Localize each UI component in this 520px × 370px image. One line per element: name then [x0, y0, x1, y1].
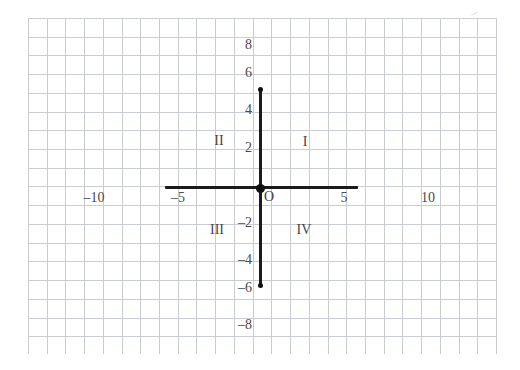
- quadrant-label-quadrant-1: I: [296, 135, 314, 149]
- x-axis-tick-label-x-minus-5: –5: [166, 191, 190, 205]
- x-axis-tick-label-x-plus-10: 10: [414, 191, 442, 205]
- y-axis-tick-label-y-minus-8: –8: [228, 318, 252, 332]
- x-axis-tick-label-x-plus-5: 5: [336, 191, 352, 205]
- quadrant-label-quadrant-2: II: [209, 134, 229, 148]
- coordinate-plane-figure: O –10–55108642–2–4–6–8IIIIIIIV: [0, 0, 520, 370]
- y-axis-tick-label-y-plus-8: 8: [234, 38, 252, 52]
- x-axis-tick-label-x-minus-10: –10: [78, 191, 110, 205]
- origin-label: O: [264, 190, 274, 204]
- quadrant-label-quadrant-3: III: [205, 223, 229, 237]
- y-axis-tick-label-y-minus-2: –2: [228, 216, 252, 230]
- axis-layer: [0, 0, 520, 370]
- y-axis-tick-label-y-minus-6: –6: [228, 281, 252, 295]
- y-axis-tick-label-y-minus-4: –4: [228, 253, 252, 267]
- y-axis-tick-label-y-plus-2: 2: [234, 141, 252, 155]
- y-axis-bottom-endpoint-dot: [258, 283, 263, 288]
- y-axis-top-endpoint-dot: [258, 87, 263, 92]
- quadrant-label-quadrant-4: IV: [293, 223, 315, 237]
- y-axis-tick-label-y-plus-6: 6: [234, 66, 252, 80]
- y-axis-tick-label-y-plus-4: 4: [234, 103, 252, 117]
